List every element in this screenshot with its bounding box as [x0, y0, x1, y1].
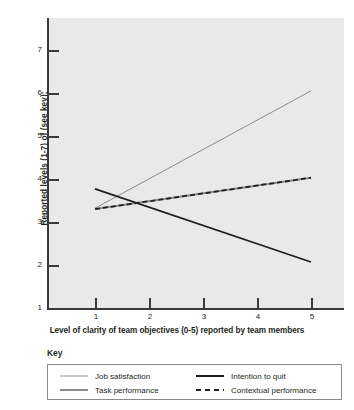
legend-swatch-task-performance: [60, 385, 88, 395]
x-tick-label-5: 5: [304, 312, 320, 321]
legend-title: Key: [47, 348, 62, 358]
x-axis-title: Level of clarity of team objectives (0-5…: [0, 326, 354, 335]
y-tick-2: [49, 265, 59, 267]
y-tick-3: [49, 222, 59, 224]
legend-item-job-satisfaction[interactable]: Job satisfaction: [60, 369, 150, 383]
x-tick-label-3: 3: [196, 312, 212, 321]
y-tick-label-6: 6: [28, 88, 42, 97]
y-tick-4: [49, 179, 59, 181]
legend-item-task-performance[interactable]: Task performance: [60, 383, 159, 397]
y-tick-5: [49, 136, 59, 138]
y-tick-label-3: 3: [28, 217, 42, 226]
legend-label-intention-to-quit: Intention to quit: [231, 372, 286, 381]
legend-label-task-performance: Task performance: [95, 386, 159, 395]
y-tick-label-7: 7: [28, 45, 42, 54]
legend-swatch-job-satisfaction: [60, 371, 88, 381]
legend-swatch-intention-to-quit: [196, 371, 224, 381]
y-tick-label-2: 2: [28, 260, 42, 269]
y-tick-7: [49, 50, 59, 52]
legend-label-job-satisfaction: Job satisfaction: [95, 372, 150, 381]
x-tick-label-2: 2: [142, 312, 158, 321]
legend-swatch-contextual-performance: [196, 385, 224, 395]
x-tick-1: [95, 298, 97, 308]
legend-item-intention-to-quit[interactable]: Intention to quit: [196, 369, 286, 383]
legend-box: Job satisfaction Task performance Intent…: [47, 364, 342, 400]
chart-figure: Reported levels (1-7) of (see key): 7 6 …: [0, 0, 354, 410]
y-tick-label-5: 5: [28, 131, 42, 140]
x-tick-label-4: 4: [250, 312, 266, 321]
y-tick-label-4: 4: [28, 174, 42, 183]
x-tick-label-1: 1: [88, 312, 104, 321]
x-tick-5: [311, 298, 313, 308]
x-tick-3: [203, 298, 205, 308]
x-tick-2: [149, 298, 151, 308]
y-tick-6: [49, 93, 59, 95]
legend-item-contextual-performance[interactable]: Contextual performance: [196, 383, 316, 397]
plot-area: [48, 18, 344, 308]
y-tick-label-1: 1: [28, 303, 42, 312]
x-axis-line: [47, 308, 344, 310]
x-tick-4: [257, 298, 259, 308]
legend-label-contextual-performance: Contextual performance: [231, 386, 316, 395]
